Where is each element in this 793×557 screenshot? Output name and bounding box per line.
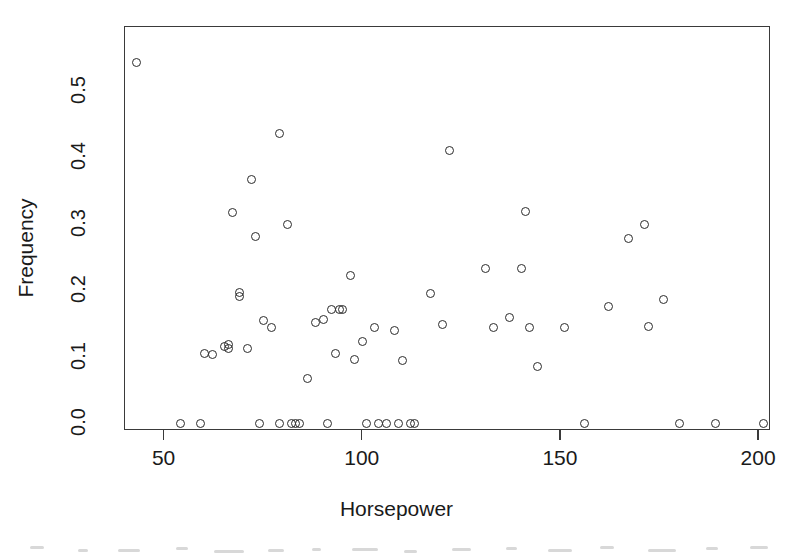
scan-speckle xyxy=(706,547,718,550)
data-point xyxy=(275,419,284,428)
y-axis-tick-label: 0.5 xyxy=(58,70,98,110)
data-point xyxy=(283,220,292,229)
data-point xyxy=(659,295,668,304)
data-point xyxy=(358,337,367,346)
data-point xyxy=(208,350,217,359)
scan-speckle xyxy=(404,550,417,553)
scatter-plot-figure: Frequency 0.00.10.20.30.40.5 50100150200… xyxy=(0,0,793,557)
data-point xyxy=(390,326,399,335)
data-point xyxy=(295,419,304,428)
data-point xyxy=(675,419,684,428)
x-axis-tick-label: 100 xyxy=(327,446,397,470)
data-point xyxy=(196,419,205,428)
data-point xyxy=(759,419,768,428)
data-point xyxy=(323,419,332,428)
data-point xyxy=(525,323,534,332)
x-axis-tick-label: 200 xyxy=(723,446,793,470)
data-point xyxy=(624,234,633,243)
scan-speckle xyxy=(312,548,321,551)
data-point xyxy=(580,419,589,428)
scan-speckle xyxy=(78,549,88,552)
data-point xyxy=(445,146,454,155)
data-point xyxy=(228,208,237,217)
data-point xyxy=(711,419,720,428)
y-axis-tick-label: 0.0 xyxy=(58,402,98,442)
data-point xyxy=(224,344,233,353)
data-point xyxy=(644,322,653,331)
data-point xyxy=(132,58,141,67)
data-point xyxy=(604,302,613,311)
scan-speckle xyxy=(176,547,188,550)
data-point xyxy=(640,220,649,229)
scan-speckle xyxy=(30,546,44,549)
plot-area xyxy=(124,26,770,430)
scan-speckle xyxy=(506,547,517,550)
x-axis-tick-mark xyxy=(361,430,362,440)
scan-speckle xyxy=(548,549,572,552)
data-point xyxy=(350,355,359,364)
data-point xyxy=(394,419,403,428)
scan-artifact-speckles xyxy=(0,544,793,557)
data-points-layer xyxy=(125,27,769,429)
x-axis-tick-label: 50 xyxy=(129,446,199,470)
data-point xyxy=(560,323,569,332)
y-axis-tick-label-text: 0.4 xyxy=(67,142,90,170)
y-axis-tick-label-text: 0.5 xyxy=(67,76,90,104)
y-axis-tick-label: 0.4 xyxy=(58,136,98,176)
data-point xyxy=(426,289,435,298)
data-point xyxy=(243,344,252,353)
x-axis-tick-mark xyxy=(163,430,164,440)
data-point xyxy=(521,207,530,216)
data-point xyxy=(303,374,312,383)
data-point xyxy=(370,323,379,332)
scan-speckle xyxy=(268,549,284,552)
y-axis-tick-label-text: 0.2 xyxy=(67,275,90,303)
data-point xyxy=(382,419,391,428)
data-point xyxy=(505,313,514,322)
x-axis-tick-label: 150 xyxy=(525,446,595,470)
y-axis-tick-label-text: 0.3 xyxy=(67,209,90,237)
data-point xyxy=(398,356,407,365)
scan-speckle xyxy=(750,546,768,549)
data-point xyxy=(331,349,340,358)
scan-speckle xyxy=(452,548,471,551)
x-axis-tick-mark xyxy=(559,430,560,440)
data-point xyxy=(338,305,347,314)
data-point xyxy=(235,292,244,301)
data-point xyxy=(481,264,490,273)
data-point xyxy=(319,315,328,324)
data-point xyxy=(267,323,276,332)
scan-speckle xyxy=(600,546,614,549)
data-point xyxy=(438,320,447,329)
scan-speckle xyxy=(648,549,676,552)
data-point xyxy=(251,232,260,241)
data-point xyxy=(247,175,256,184)
data-point xyxy=(176,419,185,428)
data-point xyxy=(533,362,542,371)
scan-speckle xyxy=(352,548,378,551)
data-point xyxy=(275,129,284,138)
data-point xyxy=(259,316,268,325)
y-axis-tick-label: 0.3 xyxy=(58,203,98,243)
y-axis-tick-label-text: 0.0 xyxy=(67,408,90,436)
data-point xyxy=(489,323,498,332)
data-point xyxy=(255,419,264,428)
y-axis-tick-label-text: 0.1 xyxy=(67,342,90,370)
y-axis-tick-group: 0.00.10.20.30.40.5 xyxy=(0,0,124,557)
data-point xyxy=(346,271,355,280)
scan-speckle xyxy=(214,550,244,553)
y-axis-tick-label: 0.2 xyxy=(58,269,98,309)
scan-speckle xyxy=(118,549,140,552)
x-axis-title: Horsepower xyxy=(0,497,793,521)
x-axis-tick-mark xyxy=(757,430,758,440)
y-axis-tick-label: 0.1 xyxy=(58,336,98,376)
data-point xyxy=(517,264,526,273)
data-point xyxy=(410,419,419,428)
data-point xyxy=(362,419,371,428)
